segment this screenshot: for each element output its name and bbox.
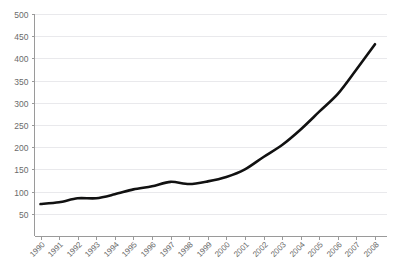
series-group [41,44,376,204]
x-axis-label-1992: 1992 [65,240,84,259]
y-axis-label-50: 50 [19,210,29,220]
x-axis-label-1996: 1996 [139,240,158,259]
x-axis-label-2008: 2008 [362,240,381,259]
x-axis-label-1994: 1994 [102,240,121,259]
x-axis-label-2003: 2003 [269,240,288,259]
x-axis-label-1998: 1998 [176,240,195,259]
x-axis-label-2004: 2004 [288,240,307,259]
x-axis-label-1997: 1997 [158,240,177,259]
y-axis-label-500: 500 [14,10,28,20]
x-axis-label-1993: 1993 [83,240,102,259]
x-axis-label-1990: 1990 [28,240,47,259]
x-axis-label-2005: 2005 [306,240,325,259]
x-axis-label-2001: 2001 [232,240,251,259]
y-axis-label-450: 450 [14,32,28,42]
y-axis-label-150: 150 [14,165,28,175]
y-tick-label-group: 50100150200250300350400450500 [14,10,28,220]
x-axis-label-2007: 2007 [343,240,362,259]
y-axis-group [32,14,35,236]
y-axis-label-400: 400 [14,54,28,64]
y-axis-label-250: 250 [14,121,28,131]
y-axis-label-100: 100 [14,188,28,198]
x-tick-label-group: 1990199119921993199419951996199719981999… [28,240,381,259]
x-axis-label-1995: 1995 [120,240,139,259]
x-axis-label-2000: 2000 [213,240,232,259]
cropped-header-strip [0,0,400,9]
gridlines-group [35,15,388,215]
chart-canvas: 50100150200250300350400450500 1990199119… [0,0,400,269]
y-axis-label-300: 300 [14,99,28,109]
x-axis-label-2002: 2002 [251,240,270,259]
x-axis-label-2006: 2006 [325,240,344,259]
y-axis-label-200: 200 [14,143,28,153]
line-chart: 50100150200250300350400450500 1990199119… [0,0,400,269]
x-axis-group [35,236,388,240]
x-axis-label-1999: 1999 [195,240,214,259]
x-axis-label-1991: 1991 [46,240,65,259]
data-line-series-1 [41,44,376,204]
y-axis-label-350: 350 [14,77,28,87]
